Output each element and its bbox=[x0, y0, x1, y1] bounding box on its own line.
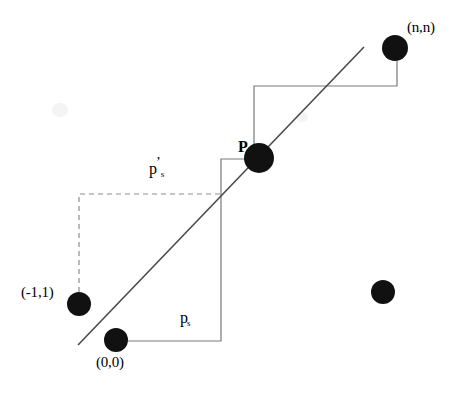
label-ps-prime-sub: s bbox=[161, 169, 165, 179]
label-ps: ps bbox=[180, 310, 192, 326]
minus-one-one-node bbox=[67, 292, 91, 316]
label-ps-sub: s bbox=[187, 318, 191, 328]
label-ps-prime: p’s bbox=[149, 161, 165, 177]
origin-node bbox=[104, 328, 128, 352]
label-p-point: P bbox=[238, 139, 248, 155]
figure-root: (n,n) P p’s ps (-1,1) (0,0) bbox=[0, 0, 467, 395]
unlabeled-node bbox=[371, 280, 395, 304]
n-n-node bbox=[382, 35, 408, 61]
label-ps-prime-sup: ’ bbox=[156, 155, 161, 170]
solid-staircase-path bbox=[128, 61, 397, 341]
label-minus-one-one: (-1,1) bbox=[21, 285, 54, 300]
p-node bbox=[244, 143, 274, 173]
label-origin: (0,0) bbox=[96, 355, 124, 370]
dashed-staircase-path bbox=[79, 194, 221, 292]
diagram-canvas bbox=[0, 0, 467, 395]
label-n-n: (n,n) bbox=[407, 20, 435, 35]
